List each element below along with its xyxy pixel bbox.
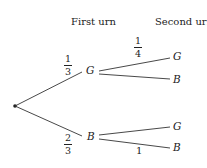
- prob-G-G: 1 4: [134, 36, 142, 59]
- edge-G-G: [99, 58, 170, 71]
- header-first-urn: First urn: [71, 16, 116, 27]
- node-second-B-bottom: B: [173, 141, 181, 153]
- header-second-urn: Second urn: [155, 16, 207, 27]
- node-second-G-top: G: [173, 50, 181, 62]
- numerator: 1: [135, 36, 141, 46]
- numerator: 1: [65, 54, 71, 64]
- numerator: 2: [65, 133, 71, 143]
- node-first-G: G: [86, 64, 94, 76]
- edge-B-B: [99, 139, 170, 148]
- prob-root-G: 1 3: [64, 54, 72, 77]
- edge-G-B: [99, 74, 170, 79]
- edge-root-G: [15, 72, 82, 106]
- denominator: 3: [65, 146, 71, 156]
- node-second-B-top: B: [173, 73, 181, 85]
- node-first-B: B: [87, 130, 95, 142]
- denominator: 3: [65, 67, 71, 77]
- node-second-G-bottom: G: [173, 120, 181, 132]
- edge-B-G: [99, 127, 170, 135]
- prob-root-B: 2 3: [64, 133, 72, 156]
- prob-B-B: 1: [136, 145, 142, 156]
- edge-root-B: [15, 106, 82, 136]
- denominator: 4: [135, 49, 141, 59]
